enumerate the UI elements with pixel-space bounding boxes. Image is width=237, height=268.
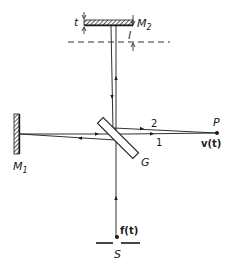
source-point	[115, 235, 119, 239]
mirror-m1-label: M1	[13, 160, 28, 175]
displacement-t-label: t	[74, 16, 79, 29]
point-p-label: P	[213, 116, 220, 129]
observation-point-p	[215, 131, 219, 135]
output-signal-label: v(t)	[201, 138, 221, 149]
mirror-m2-label: M2	[137, 17, 152, 32]
source-label: S	[114, 248, 121, 261]
beamsplitter-g	[97, 117, 138, 158]
mirror-m1	[14, 114, 20, 154]
input-signal-label: f(t)	[120, 225, 138, 236]
beamsplitter-label: G	[141, 156, 150, 169]
mirror-m2	[84, 20, 133, 26]
path-offset-l-label: l	[128, 29, 131, 42]
interferometer-diagram: M2 t l M1	[0, 0, 237, 268]
beam-1-label: 1	[156, 137, 162, 148]
beam-2-label: 2	[151, 118, 157, 129]
